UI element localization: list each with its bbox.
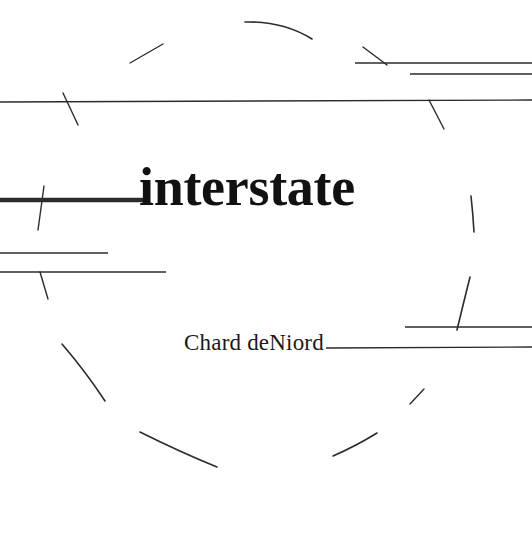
tick-small-right [410, 389, 424, 404]
arc-top-center [245, 22, 312, 39]
full-width-rule [0, 100, 532, 102]
tick-bold-rule [38, 186, 44, 230]
author-rule [326, 347, 532, 348]
tick-left-rule-long [40, 272, 48, 299]
tick-top-left [130, 44, 163, 63]
arc-right-upper [471, 196, 474, 232]
tick-rule-right [429, 100, 444, 129]
tick-rule-left [63, 93, 78, 125]
book-cover: interstate Chard deNiord [0, 0, 532, 538]
arc-bottom-left [140, 432, 217, 467]
circular-arcs-group [62, 22, 474, 467]
cover-line-artwork [0, 0, 532, 538]
page-title: interstate [139, 160, 355, 214]
arc-bottom-right [333, 433, 377, 456]
arc-left-upper [62, 344, 105, 401]
author-name: Chard deNiord [184, 331, 324, 354]
arc-right-lower [457, 277, 470, 330]
